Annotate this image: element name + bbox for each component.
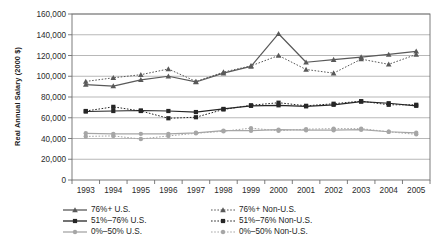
chart-container: Real Annual Salary (2000 $) 020,00040,00… xyxy=(0,0,436,250)
legend-item-label: 0%–50% Non-U.S. xyxy=(239,227,308,236)
x-tick-label: 2000 xyxy=(269,186,287,195)
legend-item[interactable]: 51%–76% U.S. xyxy=(62,215,147,226)
legend-item[interactable]: 76%+ Non-U.S. xyxy=(210,204,296,215)
chart-legend: 76%+ U.S.76%+ Non-U.S.51%–76% U.S.51%–76… xyxy=(62,204,362,244)
x-tick-label: 2005 xyxy=(407,186,425,195)
legend-item-label: 51%–76% U.S. xyxy=(91,216,147,225)
x-tick-label: 2002 xyxy=(325,186,343,195)
legend-item[interactable]: 51%–76% Non-U.S. xyxy=(210,215,312,226)
legend-item-label: 0%–50% U.S. xyxy=(91,227,142,236)
x-tick-label: 1995 xyxy=(132,186,150,195)
x-tick-label: 1996 xyxy=(159,186,177,195)
legend-item[interactable]: 76%+ U.S. xyxy=(62,204,130,215)
x-tick-label: 1993 xyxy=(77,186,95,195)
legend-item-label: 76%+ U.S. xyxy=(91,205,130,214)
legend-item-label: 51%–76% Non-U.S. xyxy=(239,216,312,225)
x-tick-label: 1994 xyxy=(104,186,122,195)
legend-triangle-icon xyxy=(210,205,236,215)
x-tick-label: 2004 xyxy=(380,186,398,195)
legend-item[interactable]: 0%–50% Non-U.S. xyxy=(210,226,308,237)
legend-circle-icon xyxy=(210,227,236,237)
x-tick-label: 2003 xyxy=(352,186,370,195)
x-axis-ticks xyxy=(72,180,430,184)
x-tick-label: 1997 xyxy=(187,186,205,195)
y-axis-ticks xyxy=(68,14,72,180)
x-tick-label: 2001 xyxy=(297,186,315,195)
legend-triangle-icon xyxy=(62,205,88,215)
legend-square-icon xyxy=(210,216,236,226)
legend-square-icon xyxy=(62,216,88,226)
legend-item-label: 76%+ Non-U.S. xyxy=(239,205,296,214)
legend-item[interactable]: 0%–50% U.S. xyxy=(62,226,142,237)
x-tick-label: 1999 xyxy=(242,186,260,195)
series-line xyxy=(84,99,419,120)
grid-lines xyxy=(72,14,430,159)
x-tick-label: 1998 xyxy=(214,186,232,195)
legend-circle-icon xyxy=(62,227,88,237)
series-line xyxy=(83,31,419,88)
